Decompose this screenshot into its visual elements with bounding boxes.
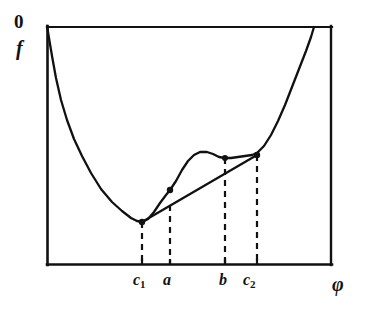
point-c1 — [139, 219, 145, 225]
point-c2 — [254, 152, 260, 158]
tick-label-c1-subscript: 1 — [140, 278, 146, 290]
free-energy-plot — [0, 0, 365, 311]
tick-label-a: a — [163, 272, 171, 288]
y-axis-label: f — [16, 38, 23, 58]
dashed-droplines — [142, 155, 257, 264]
point-b — [222, 155, 228, 161]
figure-container: 0 f φ c1 a b c2 — [0, 0, 365, 311]
origin-label: 0 — [14, 12, 24, 31]
tick-label-c1: c1 — [133, 272, 146, 288]
plot-frame — [47, 26, 332, 265]
common-tangent-chord — [142, 155, 257, 222]
x-axis-label: φ — [332, 274, 344, 294]
free-energy-curve — [47, 26, 314, 222]
point-a — [167, 187, 173, 193]
tick-label-c2-subscript: 2 — [250, 278, 256, 290]
tick-label-b: b — [219, 272, 227, 288]
tick-label-c2: c2 — [243, 272, 256, 288]
